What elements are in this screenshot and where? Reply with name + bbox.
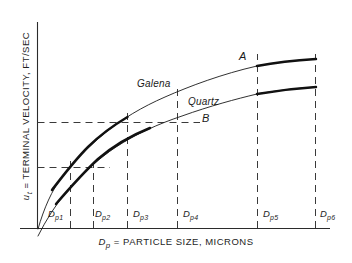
x-tick-label-dp3: Dp3	[133, 208, 148, 221]
x-tick-label-dp4: Dp4	[183, 208, 198, 221]
y-axis-label-rest: = TERMINAL VELOCITY, FT/SEC	[20, 32, 31, 192]
y-axis-label: ut = TERMINAL VELOCITY, FT/SEC	[15, 16, 31, 216]
curve-galena-a-emphasis-right	[257, 59, 316, 66]
plot-area	[0, 0, 352, 263]
x-tick-label-dp1: Dp1	[48, 208, 63, 221]
x-tick-symbol: D	[263, 208, 270, 219]
x-tick-subscript: p6	[327, 214, 335, 221]
x-axis-label: Dp = PARTICLE SIZE, MICRONS	[0, 236, 352, 250]
x-tick-subscript: p1	[55, 214, 63, 221]
x-tick-subscript: p4	[190, 214, 198, 221]
y-axis-label-symbol: u	[20, 194, 31, 200]
x-tick-label-dp2: Dp2	[95, 208, 110, 221]
x-tick-label-dp6: Dp6	[320, 208, 335, 221]
x-axis-label-symbol: D	[98, 236, 105, 247]
curve-galena-a-emphasis-left	[52, 117, 128, 190]
curve-annotation-galena: Galena	[137, 78, 170, 89]
x-tick-subscript: p3	[140, 214, 148, 221]
x-tick-symbol: D	[133, 208, 140, 219]
curve-quartz-b-emphasis-right	[257, 87, 316, 94]
curve-annotation-series-a: A	[239, 50, 247, 62]
y-axis-label-subscript: t	[25, 192, 34, 195]
x-tick-symbol: D	[48, 208, 55, 219]
x-tick-label-dp5: Dp5	[263, 208, 278, 221]
x-axis-label-rest: = PARTICLE SIZE, MICRONS	[111, 236, 254, 247]
figure-canvas: ut = TERMINAL VELOCITY, FT/SEC Dp = PART…	[0, 0, 352, 263]
curve-annotation-quartz: Quartz	[188, 96, 219, 107]
x-tick-subscript: p5	[270, 214, 278, 221]
curve-annotation-series-b: B	[202, 112, 210, 124]
x-tick-subscript: p2	[102, 214, 110, 221]
x-tick-symbol: D	[320, 208, 327, 219]
x-tick-symbol: D	[95, 208, 102, 219]
x-tick-symbol: D	[183, 208, 190, 219]
